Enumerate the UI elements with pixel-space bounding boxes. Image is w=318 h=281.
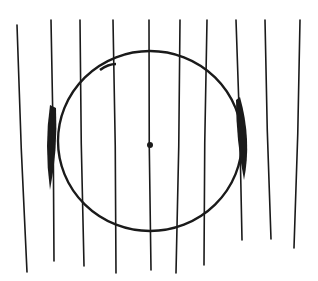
vertical-line	[204, 20, 207, 265]
diagram-canvas	[0, 0, 318, 281]
sketch-figure	[0, 0, 318, 281]
vertical-line	[80, 20, 84, 266]
crescent-left	[47, 105, 56, 190]
vertical-line	[294, 20, 300, 248]
vertical-line	[17, 25, 27, 272]
center-dot	[147, 142, 153, 148]
vertical-line	[265, 20, 271, 239]
field-lines	[17, 20, 300, 273]
vertical-line	[176, 20, 180, 273]
dark-crescents	[47, 97, 247, 190]
